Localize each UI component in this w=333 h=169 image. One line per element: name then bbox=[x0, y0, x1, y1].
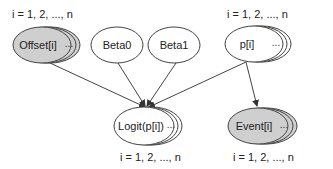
node-logit: Logit(p[i]) ... i = 1, 2, ..., n bbox=[114, 107, 182, 163]
node-label-beta1: Beta1 bbox=[160, 39, 189, 51]
stack-ellipsis-p: ... bbox=[272, 37, 280, 48]
node-label-offset: Offset[i] bbox=[19, 39, 57, 51]
node-label-beta0: Beta0 bbox=[103, 39, 132, 51]
node-offset: i = 1, 2, ..., n Offset[i] ... bbox=[12, 8, 80, 63]
node-label-p: p[i] bbox=[240, 38, 255, 50]
plate-label-p: i = 1, 2, ..., n bbox=[227, 8, 288, 20]
plate-label-event: i = 1, 2, ..., n bbox=[233, 151, 294, 163]
plate-label-offset: i = 1, 2, ..., n bbox=[12, 8, 73, 20]
stack-ellipsis-logit: ... bbox=[167, 119, 175, 130]
node-event: Event[i] ... i = 1, 2, ..., n bbox=[228, 108, 297, 163]
edge-p-logit bbox=[149, 62, 246, 107]
node-label-event: Event[i] bbox=[236, 120, 273, 132]
edges bbox=[50, 62, 257, 107]
edge-beta0-logit bbox=[118, 63, 145, 106]
node-beta1: Beta1 bbox=[148, 27, 200, 63]
node-p: i = 1, 2, ..., n p[i] ... bbox=[225, 8, 291, 62]
stack-ellipsis-event: ... bbox=[280, 119, 288, 130]
edge-beta1-logit bbox=[147, 63, 176, 106]
stack-ellipsis-offset: ... bbox=[65, 38, 73, 49]
node-label-logit: Logit(p[i]) bbox=[118, 120, 164, 132]
plate-label-logit: i = 1, 2, ..., n bbox=[120, 151, 181, 163]
node-beta0: Beta0 bbox=[91, 27, 143, 63]
edge-offset-logit bbox=[50, 63, 145, 107]
edge-p-event bbox=[246, 62, 257, 106]
dag-diagram: i = 1, 2, ..., n Offset[i] ... Beta0 Bet… bbox=[0, 0, 333, 169]
